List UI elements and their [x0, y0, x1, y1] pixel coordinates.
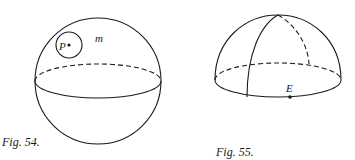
meridian-back-dashed — [278, 15, 309, 64]
caption-fig-55: Fig. 55. — [215, 145, 254, 159]
caption-fig-54: Fig. 54. — [1, 135, 40, 149]
base-front — [215, 80, 341, 97]
meridian-front — [247, 15, 278, 97]
label-p: P — [58, 40, 66, 52]
base-back-dashed — [215, 63, 341, 80]
equator-back-dashed — [35, 64, 161, 81]
point-e-dot — [288, 95, 292, 99]
equator-front — [35, 81, 161, 98]
label-e: E — [285, 82, 293, 94]
figures-canvas: P m Fig. 54. E Fig. 55. — [0, 0, 355, 160]
point-p-dot — [67, 43, 70, 46]
dome-outline — [215, 15, 341, 80]
figure-55 — [215, 15, 341, 99]
label-m: m — [95, 32, 103, 44]
